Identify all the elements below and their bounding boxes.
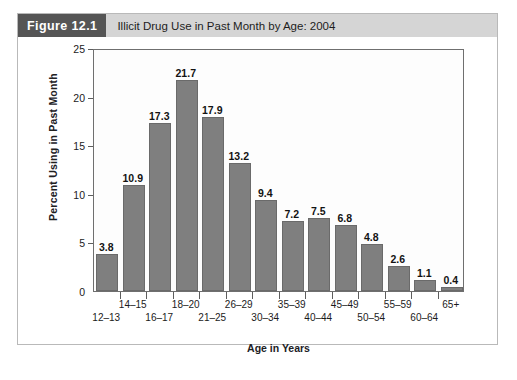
bar-value-label: 17.9: [189, 104, 235, 116]
bar: [96, 254, 118, 291]
x-tick-mark: [411, 292, 412, 299]
bar-value-label: 10.9: [110, 172, 156, 184]
x-tick-mark: [358, 292, 359, 299]
x-tick-mark: [252, 292, 253, 299]
bar-slot: [174, 50, 201, 291]
bar-slot: [121, 50, 148, 291]
x-tick-label: 12–13: [79, 312, 133, 323]
x-tick-label: 30–34: [238, 312, 292, 323]
bar-slot: [94, 50, 121, 291]
bar-value-label: 4.8: [348, 231, 394, 243]
x-tick-label: 45–49: [318, 299, 372, 310]
x-tick-label: 55–59: [371, 299, 425, 310]
bar-value-label: 0.4: [428, 274, 474, 286]
x-tick-mark: [146, 292, 147, 299]
x-tick-label: 65+: [424, 299, 478, 310]
y-tick-label: 25: [61, 43, 85, 55]
bar-slot: [147, 50, 174, 291]
y-tick-label: 0: [61, 286, 85, 298]
bar-slot: [200, 50, 227, 291]
figure-number-badge: Figure 12.1: [18, 14, 106, 37]
x-tick-label: 14–15: [106, 299, 160, 310]
bar-slot: [253, 50, 280, 291]
figure-header: Figure 12.1 Illicit Drug Use in Past Mon…: [18, 14, 497, 37]
x-tick-mark: [199, 292, 200, 299]
bar-slot: [306, 50, 333, 291]
bar: [308, 218, 330, 291]
x-tick-mark: [173, 292, 174, 299]
x-tick-mark: [305, 292, 306, 299]
bar-slot: [439, 50, 466, 291]
x-tick-mark: [226, 292, 227, 299]
bar: [123, 185, 145, 291]
chart-area: Percent Using in Past Month 0510152025 3…: [18, 37, 497, 344]
bar: [149, 123, 171, 291]
x-tick-mark: [438, 292, 439, 299]
x-tick-label: 35–39: [265, 299, 319, 310]
bar: [361, 244, 383, 291]
bar-value-label: 3.8: [83, 241, 129, 253]
x-tick-label: 16–17: [132, 312, 186, 323]
x-tick-mark: [385, 292, 386, 299]
bar: [202, 117, 224, 291]
x-tick-mark: [279, 292, 280, 299]
bar-value-label: 2.6: [375, 253, 421, 265]
x-tick-label: 40–44: [291, 312, 345, 323]
bar-slot: [280, 50, 307, 291]
y-tick-label: 20: [61, 92, 85, 104]
x-tick-mark: [120, 292, 121, 299]
bar: [282, 221, 304, 291]
y-tick-label: 15: [61, 140, 85, 152]
bar-value-label: 21.7: [163, 67, 209, 79]
x-tick-label: 50–54: [344, 312, 398, 323]
x-tick-mark: [332, 292, 333, 299]
y-tick-label: 10: [61, 189, 85, 201]
bar-slot: [333, 50, 360, 291]
x-tick-label: 21–25: [185, 312, 239, 323]
x-tick-label: 60–64: [397, 312, 451, 323]
bar-value-label: 17.3: [136, 110, 182, 122]
bar-slot: [227, 50, 254, 291]
x-tick-label: 18–20: [159, 299, 213, 310]
figure-container: Figure 12.1 Illicit Drug Use in Past Mon…: [17, 13, 498, 345]
y-axis-title: Percent Using in Past Month: [47, 52, 59, 242]
y-tick-label: 5: [61, 237, 85, 249]
figure-title: Illicit Drug Use in Past Month by Age: 2…: [106, 14, 335, 37]
bar: [441, 287, 463, 291]
bar-value-label: 9.4: [242, 187, 288, 199]
x-tick-label: 26–29: [212, 299, 266, 310]
bar: [229, 163, 251, 291]
bar-value-label: 6.8: [322, 212, 368, 224]
bar-value-label: 13.2: [216, 150, 262, 162]
x-axis-title: Age in Years: [93, 342, 464, 354]
